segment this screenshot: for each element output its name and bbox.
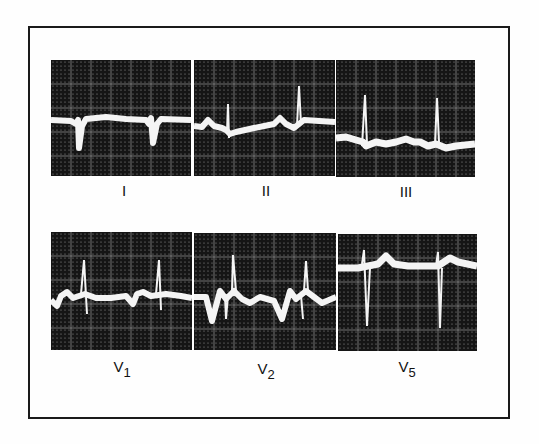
ecg-trace-lead-v1 bbox=[51, 232, 192, 350]
lead-label-iii: III bbox=[376, 183, 436, 200]
ecg-trace-lead-ii bbox=[194, 60, 335, 176]
ecg-trace-lead-iii bbox=[336, 60, 475, 177]
lead-name: II bbox=[262, 182, 270, 199]
lead-subscript: 2 bbox=[267, 367, 274, 382]
ecg-panel-lead-v1 bbox=[51, 232, 192, 350]
lead-name: V bbox=[113, 358, 123, 375]
lead-label-v5: V5 bbox=[377, 358, 437, 380]
ecg-panel-lead-i bbox=[51, 60, 191, 176]
lead-label-v2: V2 bbox=[236, 360, 296, 382]
lead-name: I bbox=[122, 182, 126, 199]
lead-label-v1: V1 bbox=[92, 358, 152, 380]
lead-label-i: I bbox=[94, 182, 154, 199]
lead-name: V bbox=[257, 360, 267, 377]
lead-label-ii: II bbox=[236, 182, 296, 199]
ecg-panel-lead-v5 bbox=[338, 234, 477, 351]
ecg-trace-lead-v5 bbox=[338, 234, 477, 351]
ecg-panel-lead-v2 bbox=[194, 233, 336, 350]
lead-subscript: 5 bbox=[408, 365, 415, 380]
ecg-panel-lead-ii bbox=[194, 60, 335, 176]
ecg-trace-lead-i bbox=[51, 60, 191, 176]
lead-name: III bbox=[400, 183, 413, 200]
ecg-panel-lead-iii bbox=[336, 60, 475, 177]
ecg-trace-lead-v2 bbox=[194, 233, 336, 350]
lead-subscript: 1 bbox=[123, 365, 130, 380]
lead-name: V bbox=[398, 358, 408, 375]
